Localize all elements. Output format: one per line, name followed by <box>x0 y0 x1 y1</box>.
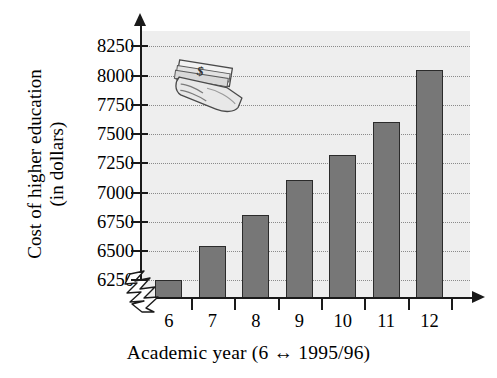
y-axis-tick-mark <box>131 162 148 164</box>
x-axis-tick-label: 10 <box>321 312 365 331</box>
x-axis-arrow-icon <box>472 291 485 303</box>
y-axis-tick-label: 8000 <box>72 66 134 85</box>
x-axis-tick-label: 9 <box>277 312 321 331</box>
y-axis-tick-mark <box>131 279 148 281</box>
x-axis-tick-mark <box>278 299 280 310</box>
x-axis-tick-mark <box>191 299 193 310</box>
y-axis-tick-label: 7250 <box>72 154 134 173</box>
y-axis-title-line-2: (in dollars) <box>46 14 68 314</box>
x-axis-tick-mark <box>234 299 236 310</box>
x-axis-tick-label: 12 <box>408 312 452 331</box>
y-axis-tick-mark <box>131 250 148 252</box>
bar <box>373 122 400 298</box>
y-axis-tick-label: 7500 <box>72 125 134 144</box>
x-axis-tick-label: 6 <box>147 312 191 331</box>
y-axis-arrow-icon <box>134 13 146 26</box>
bar <box>286 180 313 298</box>
x-axis-tick-mark <box>408 299 410 310</box>
bar <box>329 155 356 298</box>
x-axis-tick-label: 8 <box>234 312 278 331</box>
gridline <box>142 46 470 47</box>
y-axis-tick-mark <box>131 221 148 223</box>
x-axis-tick-mark <box>321 299 323 310</box>
y-axis-tick-label: 8250 <box>72 37 134 56</box>
bar-chart-figure: Cost of higher education (in dollars) 62… <box>0 0 497 378</box>
y-axis-tick-mark <box>131 45 148 47</box>
y-axis-tick-mark <box>131 192 148 194</box>
y-axis-tick-label: 6500 <box>72 242 134 261</box>
y-axis-tick-mark <box>131 133 148 135</box>
x-axis-tick-mark <box>364 299 366 310</box>
bar <box>242 215 269 298</box>
x-axis-title: Academic year (6 ↔ 1995/96) <box>0 342 497 364</box>
y-axis-tick-labels: 625065006750700072507500775080008250 <box>72 0 134 378</box>
x-axis-tick-label: 7 <box>190 312 234 331</box>
bar <box>416 70 443 298</box>
bar <box>199 246 226 298</box>
y-axis-tick-label: 7750 <box>72 96 134 115</box>
axis-break-icon <box>124 268 168 314</box>
hand-holding-cash-icon: $ <box>158 56 262 138</box>
y-axis-tick-label: 6750 <box>72 213 134 232</box>
x-axis-tick-label: 11 <box>364 312 408 331</box>
x-axis-tick-mark <box>451 299 453 310</box>
y-axis-tick-mark <box>131 75 148 77</box>
y-axis-title-line-1: Cost of higher education <box>24 14 46 314</box>
y-axis-tick-mark <box>131 104 148 106</box>
y-axis-tick-label: 7000 <box>72 183 134 202</box>
